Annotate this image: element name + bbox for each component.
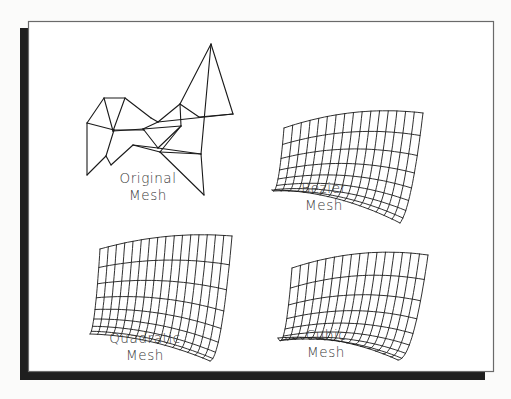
cubic-mesh-label-line2: Mesh — [306, 344, 347, 361]
frame-shadow-bottom — [20, 371, 485, 380]
bezier-mesh-label: Bezier Mesh — [301, 180, 346, 214]
original-mesh-label: Original Mesh — [119, 170, 176, 204]
quadratic-mesh-label-line2: Mesh — [109, 347, 181, 364]
bezier-mesh-label-line1: Bezier — [301, 180, 346, 197]
bezier-mesh-label-line2: Mesh — [301, 197, 346, 214]
cubic-mesh-label-line1: Cubic — [306, 327, 347, 344]
original-mesh-label-line2: Mesh — [119, 187, 176, 204]
quadratic-mesh-label-line1: Quadratic — [109, 330, 181, 347]
cubic-mesh-label: Cubic Mesh — [306, 327, 347, 361]
frame-shadow-left — [20, 28, 29, 380]
mesh-figure — [0, 0, 511, 399]
quadratic-mesh-label: Quadratic Mesh — [109, 330, 181, 364]
original-mesh-label-line1: Original — [119, 170, 176, 187]
